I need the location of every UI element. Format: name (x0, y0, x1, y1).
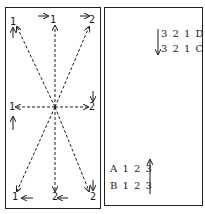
code-321c: 3 2 1 C (161, 43, 204, 55)
code-a123: A 1 2 3 (110, 163, 153, 175)
label-mid-right: 2 (89, 102, 95, 112)
label-mid-left: 1 (9, 102, 15, 112)
label-top-right: 2 (89, 15, 95, 25)
label-bottom-right: 2 (90, 192, 96, 202)
code-b123: B 1 2 3 (110, 180, 153, 192)
label-bottom-left: 1 (12, 192, 18, 202)
dashed-arrow-bottom-left (17, 107, 55, 191)
label-top-center: 1 (50, 15, 56, 25)
dashed-arrow-top-right (55, 27, 89, 107)
code-321d: 3 2 1 D (161, 28, 205, 40)
label-top-left: 1 (10, 17, 16, 27)
label-bottom-center: 2 (52, 192, 58, 202)
dashed-arrow-top-left (17, 27, 55, 107)
dashed-arrow-bottom-right (55, 107, 89, 191)
